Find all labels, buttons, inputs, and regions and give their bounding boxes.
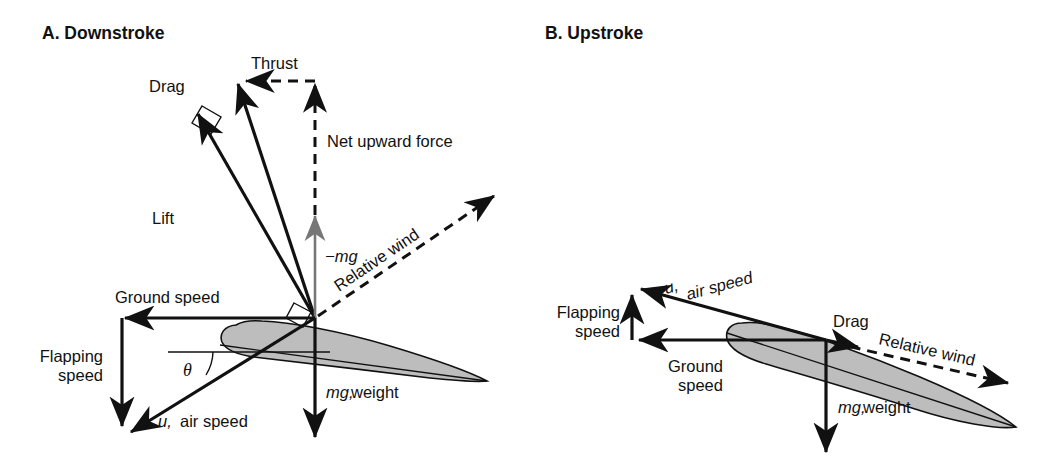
ground-speed-label-a: Ground speed xyxy=(115,288,220,306)
flapping-speed-label-line2-b: speed xyxy=(575,322,620,340)
flapping-speed-label-line2-a: speed xyxy=(58,366,103,384)
panel-a-title: A. Downstroke xyxy=(42,23,165,43)
air-speed-label-a: air speed xyxy=(180,412,248,430)
mg-weight-label-b: weight xyxy=(862,398,911,416)
mg-weight-symbol-a: mg, xyxy=(326,383,354,401)
flapping-speed-label-line1-b: Flapping xyxy=(557,303,620,321)
theta-arc-a xyxy=(206,352,213,375)
figure-root: A. Downstroke θ Lift Drag Thrust Ne xyxy=(0,0,1059,469)
drag-label-b: Drag xyxy=(833,312,869,330)
relative-wind-label-b: Relative wind xyxy=(877,329,977,369)
net-upward-force-label-a: Net upward force xyxy=(327,132,453,150)
drag-label-a: Drag xyxy=(149,77,185,95)
ground-speed-label-line2-b: speed xyxy=(678,376,723,394)
panel-a: A. Downstroke θ Lift Drag Thrust Ne xyxy=(40,23,494,437)
thrust-label-a: Thrust xyxy=(251,54,298,72)
theta-label-a: θ xyxy=(183,360,192,380)
mg-weight-label-a: weight xyxy=(350,383,399,401)
flapping-speed-label-line1-a: Flapping xyxy=(40,347,103,365)
neg-mg-label-a: −mg xyxy=(325,247,358,265)
mg-weight-symbol-b: mg, xyxy=(838,398,866,416)
flight-forces-diagram: A. Downstroke θ Lift Drag Thrust Ne xyxy=(0,0,1059,469)
air-speed-symbol-b: u, xyxy=(662,276,680,297)
panel-b: B. Upstroke u, air speed Ground speed Fl… xyxy=(545,23,1016,452)
air-speed-symbol-a: u, xyxy=(158,412,172,430)
ground-speed-label-line1-b: Ground xyxy=(668,357,723,375)
panel-b-title: B. Upstroke xyxy=(545,23,643,43)
lift-label-a: Lift xyxy=(152,209,174,227)
air-speed-label-b: air speed xyxy=(684,268,755,303)
